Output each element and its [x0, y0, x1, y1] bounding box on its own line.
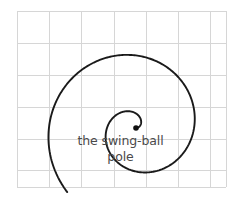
swing-ball-pole-marker	[133, 125, 139, 131]
spiral-diagram-canvas	[0, 0, 241, 203]
spiral-figure: the swing-ball pole	[0, 0, 241, 203]
caption-line-secondary: pole	[0, 149, 241, 164]
caption-line-primary: the swing-ball	[0, 133, 241, 148]
